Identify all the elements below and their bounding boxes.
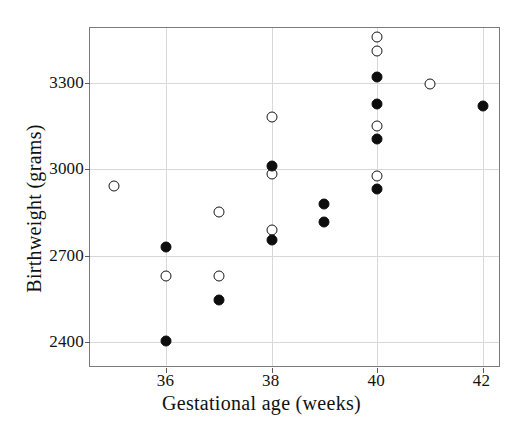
data-point-open [424, 79, 435, 90]
data-point-open [372, 31, 383, 42]
data-point-filled [477, 100, 488, 111]
data-point-open [266, 112, 277, 123]
y-axis-title: Birthweight (grams) [23, 79, 46, 339]
y-tick-label: 2400 [49, 333, 84, 350]
gridline-horizontal [90, 169, 499, 170]
y-tick-label: 2700 [49, 246, 84, 263]
data-point-open [372, 171, 383, 182]
y-tick-mark [85, 256, 90, 257]
data-point-filled [372, 99, 383, 110]
x-tick-label: 38 [262, 372, 279, 389]
x-tick-label: 42 [473, 372, 490, 389]
data-point-open [214, 207, 225, 218]
gridline-horizontal [90, 256, 499, 257]
plot-area [89, 27, 500, 367]
gridline-vertical [483, 28, 484, 366]
data-point-open [214, 270, 225, 281]
data-point-filled [266, 161, 277, 172]
data-point-filled [319, 217, 330, 228]
y-tick-mark [85, 83, 90, 84]
data-point-filled [161, 335, 172, 346]
data-point-filled [161, 241, 172, 252]
data-point-filled [319, 198, 330, 209]
y-tick-label: 3300 [49, 73, 84, 90]
data-point-filled [372, 133, 383, 144]
y-tick-mark [85, 169, 90, 170]
y-tick-mark [85, 342, 90, 343]
y-tick-label: 3000 [49, 160, 84, 177]
gridline-vertical [166, 28, 167, 366]
gridline-horizontal [90, 83, 499, 84]
data-point-filled [214, 295, 225, 306]
scatter-plot-figure: 2400270030003300 36384042 Gestational ag… [0, 0, 523, 430]
data-point-filled [372, 184, 383, 195]
gridline-horizontal [90, 342, 499, 343]
x-tick-label: 36 [157, 372, 174, 389]
data-point-filled [372, 71, 383, 82]
x-tick-label: 40 [367, 372, 384, 389]
data-point-filled [266, 234, 277, 245]
data-point-open [161, 270, 172, 281]
x-axis-title: Gestational age (weeks) [0, 392, 523, 415]
gridline-vertical [272, 28, 273, 366]
data-point-open [108, 181, 119, 192]
data-point-open [372, 46, 383, 57]
data-point-open [372, 120, 383, 131]
